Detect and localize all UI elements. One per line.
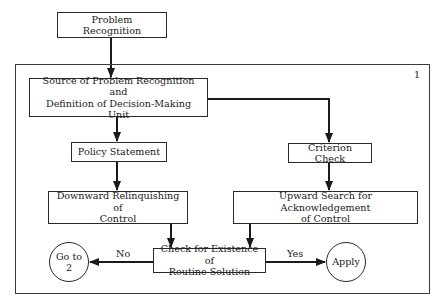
node-label: Problem Recognition — [62, 14, 162, 37]
node-source-definition: Source of Problem Recognition and Defini… — [29, 78, 208, 117]
node-label-line2: Routine Solution — [169, 266, 250, 278]
node-label-line1: Go to — [56, 251, 82, 263]
node-upward-search: Upward Search for Acknowledgement of Con… — [233, 191, 418, 224]
node-downward-relinquishing: Downward Relinquishing of Control — [48, 191, 188, 224]
node-label-line2: Control — [100, 213, 137, 225]
node-label-line2: Definition of Decision-Making Unit — [34, 98, 203, 121]
node-label-line2: of Control — [301, 213, 350, 225]
node-label: Policy Statement — [78, 146, 160, 158]
node-label-line1: Source of Problem Recognition and — [34, 75, 203, 98]
node-check-routine-solution: Check for Existence of Routine Solution — [153, 248, 266, 273]
node-label: Criterion Check — [293, 142, 367, 165]
node-label: Apply — [332, 256, 360, 268]
node-apply: Apply — [326, 242, 366, 282]
node-problem-recognition: Problem Recognition — [57, 12, 167, 38]
frame-number: 1 — [414, 69, 420, 80]
node-goto-2: Go to 2 — [49, 242, 89, 282]
node-policy-statement: Policy Statement — [71, 142, 167, 162]
node-criterion-check: Criterion Check — [288, 143, 372, 163]
node-label-line1: Upward Search for Acknowledgement — [238, 190, 413, 213]
node-label-line2: 2 — [66, 262, 72, 274]
node-label-line1: Downward Relinquishing of — [53, 190, 183, 213]
edge-label-no: No — [116, 248, 130, 259]
edge-label-yes: Yes — [287, 248, 303, 259]
flowchart-canvas: 1 Problem Recognition Source of Problem … — [0, 0, 441, 306]
node-label-line1: Check for Existence of — [156, 243, 263, 266]
